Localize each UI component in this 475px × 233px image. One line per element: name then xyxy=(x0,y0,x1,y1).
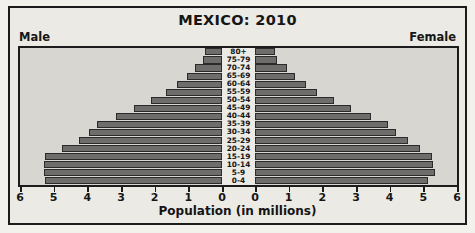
male-bar-row xyxy=(20,96,222,104)
female-bar xyxy=(255,153,432,160)
age-group-label: 0-4 xyxy=(222,177,255,185)
female-bar-row xyxy=(255,112,457,120)
male-bar xyxy=(166,89,222,96)
x-axis-tick-label: 4 xyxy=(84,191,92,204)
female-bar-row xyxy=(255,88,457,96)
male-bar xyxy=(177,81,222,88)
male-bar xyxy=(195,64,222,71)
male-bar-row xyxy=(20,169,222,177)
male-bar xyxy=(89,129,222,136)
male-bar xyxy=(151,97,222,104)
male-bar-row xyxy=(20,177,222,185)
female-bar xyxy=(255,177,428,184)
female-bar xyxy=(255,137,408,144)
age-group-axis: 80+75-7970-7465-6960-6455-5950-5445-4940… xyxy=(222,48,255,185)
chart-title: MEXICO: 2010 xyxy=(10,12,465,28)
female-bar-row xyxy=(255,161,457,169)
x-axis-tick-label: 2 xyxy=(319,191,327,204)
male-bar-row xyxy=(20,56,222,64)
male-bar-row xyxy=(20,80,222,88)
male-bar xyxy=(203,56,222,63)
female-bar xyxy=(255,73,295,80)
x-axis-tick-label: 5 xyxy=(50,191,58,204)
male-bar-row xyxy=(20,153,222,161)
female-bar xyxy=(255,105,351,112)
female-side-label: Female xyxy=(409,30,456,44)
male-bar-row xyxy=(20,120,222,128)
female-bar-row xyxy=(255,104,457,112)
female-bar xyxy=(255,64,287,71)
female-bars-panel xyxy=(255,48,457,185)
x-axis-tick-label: 1 xyxy=(285,191,293,204)
male-bar xyxy=(62,145,222,152)
x-axis-tick-label: 5 xyxy=(420,191,428,204)
female-bar xyxy=(255,48,275,55)
female-bar-row xyxy=(255,56,457,64)
male-bar-row xyxy=(20,104,222,112)
male-bar-row xyxy=(20,137,222,145)
female-bar-row xyxy=(255,177,457,185)
male-bar xyxy=(97,121,222,128)
male-bar xyxy=(116,113,222,120)
male-bar-row xyxy=(20,112,222,120)
male-bar xyxy=(45,153,222,160)
male-side-label: Male xyxy=(19,30,50,44)
female-bar xyxy=(255,81,306,88)
x-axis-tick-label: 2 xyxy=(151,191,159,204)
male-bar xyxy=(79,137,222,144)
x-axis-tick-label: 3 xyxy=(117,191,125,204)
female-bar-row xyxy=(255,48,457,56)
female-bar xyxy=(255,145,420,152)
female-bar xyxy=(255,129,396,136)
chart-figure: MEXICO: 2010 Male Female 80+75-7970-7465… xyxy=(8,6,467,225)
x-axis-tick-label: 0 xyxy=(218,191,226,204)
female-bar xyxy=(255,56,277,63)
female-bar xyxy=(255,89,317,96)
male-bar-row xyxy=(20,48,222,56)
x-axis-title: Population (in millions) xyxy=(10,204,465,218)
x-axis-tick-label: 0 xyxy=(251,191,259,204)
female-bar-row xyxy=(255,145,457,153)
female-bar-row xyxy=(255,80,457,88)
male-bar xyxy=(134,105,222,112)
x-axis-tick-label: 3 xyxy=(352,191,360,204)
x-axis-tick-label: 4 xyxy=(386,191,394,204)
female-bar xyxy=(255,113,371,120)
x-axis-tick-label: 6 xyxy=(16,191,24,204)
female-bar-row xyxy=(255,128,457,136)
male-bars-panel xyxy=(20,48,222,185)
male-bar-row xyxy=(20,161,222,169)
female-bar xyxy=(255,169,435,176)
male-bar xyxy=(45,177,222,184)
male-bar-row xyxy=(20,64,222,72)
male-bar-row xyxy=(20,72,222,80)
pyramid-plot-area: 80+75-7970-7465-6960-6455-5950-5445-4940… xyxy=(18,46,459,187)
male-bar-row xyxy=(20,88,222,96)
female-bar-row xyxy=(255,120,457,128)
male-bar xyxy=(187,73,222,80)
male-bar xyxy=(205,48,222,55)
female-bar-row xyxy=(255,169,457,177)
male-bar xyxy=(44,169,222,176)
x-axis-tick-label: 6 xyxy=(453,191,461,204)
female-bar-row xyxy=(255,72,457,80)
male-bar-row xyxy=(20,145,222,153)
female-bar-row xyxy=(255,64,457,72)
female-bar-row xyxy=(255,96,457,104)
female-bar xyxy=(255,121,388,128)
female-bar xyxy=(255,97,334,104)
female-bar-row xyxy=(255,153,457,161)
male-bar xyxy=(44,161,222,168)
x-axis-tick-label: 1 xyxy=(185,191,193,204)
female-bar-row xyxy=(255,137,457,145)
male-bar-row xyxy=(20,128,222,136)
female-bar xyxy=(255,161,433,168)
